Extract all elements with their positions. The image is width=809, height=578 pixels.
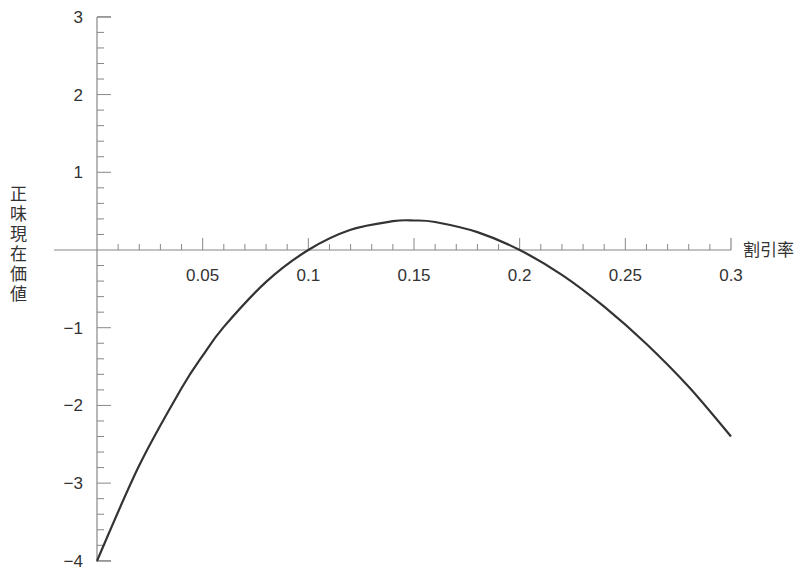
- svg-text:値: 値: [10, 284, 27, 304]
- y-tick-label: −4: [64, 552, 83, 571]
- y-tick-label: 3: [74, 8, 83, 27]
- x-axis-label: 割引率: [743, 240, 794, 260]
- y-tick-label: −2: [64, 396, 83, 415]
- x-tick-label: 0.05: [186, 266, 219, 285]
- npv-chart: 0.050.10.150.20.250.3321−1−2−3−4 割引率 正味現…: [0, 0, 809, 578]
- x-tick-label: 0.25: [609, 266, 642, 285]
- tick-labels: 0.050.10.150.20.250.3321−1−2−3−4: [64, 8, 743, 571]
- y-axis-label: 正味現在価値: [10, 184, 27, 304]
- svg-text:味: 味: [10, 204, 27, 224]
- svg-text:正: 正: [10, 184, 27, 204]
- ticks: [97, 17, 710, 561]
- x-tick-label: 0.3: [719, 266, 743, 285]
- svg-text:在: 在: [10, 244, 27, 264]
- x-tick-label: 0.2: [508, 266, 532, 285]
- axes: [54, 17, 731, 562]
- y-tick-label: 1: [74, 163, 83, 182]
- x-tick-label: 0.1: [297, 266, 321, 285]
- svg-text:現: 現: [10, 224, 27, 244]
- x-tick-label: 0.15: [397, 266, 430, 285]
- svg-text:価: 価: [10, 264, 27, 284]
- y-tick-label: 2: [74, 86, 83, 105]
- y-tick-label: −1: [64, 319, 83, 338]
- y-tick-label: −3: [64, 474, 83, 493]
